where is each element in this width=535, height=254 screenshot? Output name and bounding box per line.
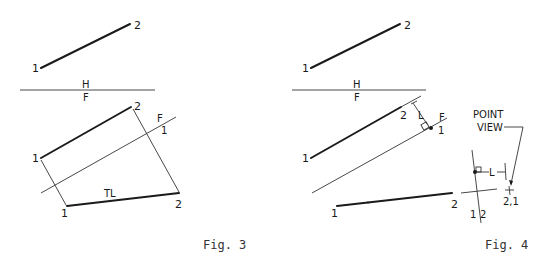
front-view-label-2: 2 [134, 100, 141, 113]
front-view-label-1: 1 [302, 152, 309, 165]
figure-4: 1 2 H F 1 2 L F 1 1 2 1 2 L [292, 19, 528, 252]
aux-view-line [337, 193, 452, 206]
figure-caption: Fig. 4 [485, 238, 528, 252]
aux-view-label-2: 2 [451, 198, 458, 211]
fold-label-f: F [83, 92, 89, 103]
fold-line-f1 [312, 118, 447, 193]
point-marker [473, 170, 477, 174]
aux-view-extension [461, 189, 497, 193]
aux-view-label-2: 2 [175, 198, 182, 211]
fold-label-f: F [157, 113, 163, 124]
front-view-label-1: 1 [32, 152, 39, 165]
projector-1 [41, 160, 66, 205]
fold-label-1: 1 [161, 125, 167, 136]
descriptive-geometry-drawing: 1 2 H F 1 2 F 1 1 2 TL Fig. 3 1 2 H F [0, 0, 535, 254]
top-view-label-2: 2 [134, 19, 141, 32]
front-view-extension [401, 96, 421, 107]
dimension-label-l: L [418, 110, 424, 121]
top-view-line [311, 24, 400, 68]
point-view-label: 2,1 [503, 196, 519, 207]
figure-3: 1 2 H F 1 2 F 1 1 2 TL Fig. 3 [20, 19, 246, 252]
point-view-cross-v [509, 186, 510, 195]
fold-label-1: 1 [470, 209, 476, 220]
arrow-head-icon [509, 180, 513, 186]
aux-view-label-1: 1 [331, 207, 338, 220]
fold-label-f: F [439, 112, 445, 123]
aux-view-label-1: 1 [61, 207, 68, 220]
front-view-line [311, 107, 401, 158]
true-length-tag: TL [103, 188, 116, 199]
fold-line-f1 [41, 117, 176, 193]
fold-label-2: 2 [480, 209, 486, 220]
front-view-label-2: 2 [400, 109, 407, 122]
fold-label-h: H [353, 79, 361, 90]
projector-2 [133, 109, 179, 192]
top-view-label-2: 2 [404, 19, 411, 32]
top-view-label-1: 1 [32, 62, 39, 75]
fold-label-1: 1 [438, 125, 444, 136]
dimension-label-l: L [489, 167, 495, 178]
callout-leader [504, 127, 523, 184]
fold-label-h: H [82, 79, 90, 90]
top-view-label-1: 1 [302, 62, 309, 75]
aux-view-true-length-line [67, 193, 179, 206]
callout-line-2: VIEW [477, 122, 503, 133]
fold-label-f: F [354, 92, 360, 103]
top-view-line [41, 24, 130, 68]
figure-caption: Fig. 3 [203, 238, 246, 252]
callout-line-1: POINT [473, 109, 504, 120]
dimension-extension [505, 163, 506, 180]
point-marker [429, 126, 433, 130]
